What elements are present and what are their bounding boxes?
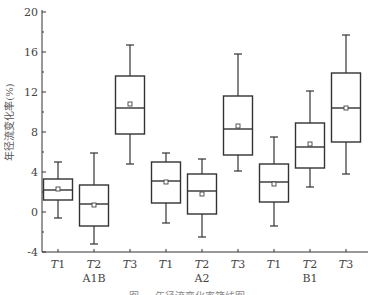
mean-marker	[128, 102, 132, 106]
mean-marker	[164, 180, 168, 184]
y-tick-label: 16	[24, 46, 38, 59]
y-tick-label: 0	[31, 206, 38, 219]
mean-marker	[308, 142, 312, 146]
box-A2-T2	[188, 159, 217, 237]
box-A1B-T3	[116, 45, 145, 164]
x-tick-label: T1	[51, 258, 65, 271]
mean-marker	[92, 203, 96, 207]
group-label-A1B: A1B	[81, 272, 105, 285]
figure-caption: 图 … 年径流变化率箱线图	[0, 288, 374, 295]
box-plot-chart: -4048121620T1T2T3T1T2T3T1T2T3A1BA2B1	[0, 0, 374, 295]
box-A1B-T2	[80, 153, 109, 244]
mean-marker	[344, 106, 348, 110]
x-tick-label: T2	[195, 258, 209, 271]
x-tick-label: T2	[303, 258, 317, 271]
y-tick-label: -4	[27, 246, 38, 259]
group-label-B1: B1	[302, 272, 317, 285]
x-tick-label: T1	[267, 258, 281, 271]
y-tick-label: 8	[31, 126, 38, 139]
x-tick-label: T3	[231, 258, 245, 271]
box-A2-T1	[152, 153, 181, 223]
mean-marker	[236, 124, 240, 128]
x-tick-label: T3	[123, 258, 137, 271]
group-label-A2: A2	[194, 272, 210, 285]
x-tick-label: T2	[87, 258, 101, 271]
mean-marker	[272, 182, 276, 186]
y-tick-label: 12	[24, 86, 38, 99]
x-tick-label: T3	[339, 258, 353, 271]
box-A2-T3	[224, 54, 253, 171]
box-B1-T2	[296, 91, 325, 187]
box-B1-T1	[260, 137, 289, 226]
x-tick-label: T1	[159, 258, 173, 271]
y-tick-label: 4	[31, 166, 38, 179]
mean-marker	[56, 187, 60, 191]
y-axis-label: 年径流变化率(%)	[1, 62, 15, 182]
mean-marker	[200, 192, 204, 196]
box-B1-T3	[332, 35, 361, 174]
y-tick-label: 20	[24, 6, 38, 19]
box-A1B-T1	[44, 162, 73, 218]
